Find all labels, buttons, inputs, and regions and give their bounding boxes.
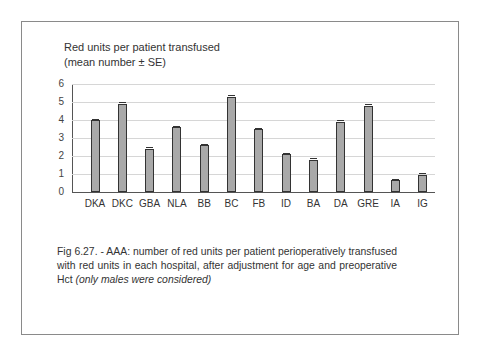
y-tick-label: 6 (52, 78, 64, 89)
error-bar (92, 119, 99, 122)
bar-dkc (118, 104, 127, 192)
y-axis-title-line1: Red units per patient transfused (64, 40, 220, 55)
y-tick-label: 0 (52, 186, 64, 197)
y-tick-label: 2 (52, 150, 64, 161)
error-bar (283, 153, 290, 156)
error-bar (255, 128, 262, 131)
bar-nla (172, 127, 181, 192)
x-tick-label: BB (189, 198, 219, 209)
bar-da (336, 122, 345, 192)
y-tick-label: 5 (52, 96, 64, 107)
x-tick-label: GBA (135, 198, 165, 209)
y-tick-label: 1 (52, 168, 64, 179)
error-bar (119, 102, 126, 105)
y-axis-title: Red units per patient transfused (mean n… (64, 40, 220, 70)
bar-id (282, 154, 291, 192)
bar-dka (91, 120, 100, 192)
error-bar (201, 144, 208, 147)
x-tick-label: GRE (353, 198, 383, 209)
error-bar (310, 158, 317, 161)
y-tick-label: 3 (52, 132, 64, 143)
error-bar (173, 126, 180, 129)
x-tick-label: ID (271, 198, 301, 209)
bar-ba (309, 160, 318, 192)
bar-bb (200, 145, 209, 192)
x-tick-label: DKC (107, 198, 137, 209)
x-tick-label: BA (298, 198, 328, 209)
figure-caption: Fig 6.27. - AAA: number of red units per… (57, 245, 397, 287)
bar-bc (227, 97, 236, 192)
x-axis-line (72, 192, 435, 193)
x-tick-label: DKA (80, 198, 110, 209)
error-bar (392, 179, 399, 182)
gridline (72, 84, 435, 85)
bar-fb (254, 129, 263, 192)
error-bar (419, 173, 426, 176)
bar-ig (418, 175, 427, 192)
error-bar (365, 104, 372, 107)
bar-gre (364, 106, 373, 192)
x-tick-label: NLA (162, 198, 192, 209)
x-tick-label: FB (244, 198, 274, 209)
plot-area (72, 84, 435, 192)
bar-gba (145, 149, 154, 192)
error-bar (228, 95, 235, 98)
caption-note: (only males were considered) (75, 274, 211, 285)
error-bar (146, 147, 153, 150)
x-tick-label: BC (217, 198, 247, 209)
y-axis-title-line2: (mean number ± SE) (64, 55, 220, 70)
x-tick-label: IA (380, 198, 410, 209)
x-tick-label: DA (326, 198, 356, 209)
bar-ia (391, 180, 400, 192)
y-tick-label: 4 (52, 114, 64, 125)
error-bar (337, 120, 344, 123)
x-tick-label: IG (408, 198, 438, 209)
